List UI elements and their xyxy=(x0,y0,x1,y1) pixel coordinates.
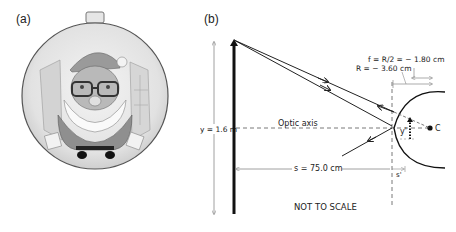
optic-axis-label: Optic axis xyxy=(278,119,318,128)
panel-a-ornament: (a) xyxy=(0,0,200,232)
image-distance-label: s' xyxy=(396,171,402,179)
ray-diagram: y = 1.6 m Optic axis C y' s = 75.0 c xyxy=(200,0,456,232)
focal-length-label: f = R/2 = − 1.80 cm xyxy=(368,55,444,64)
not-to-scale-note: NOT TO SCALE xyxy=(294,202,357,212)
panel-b-ray-diagram: (b) y = 1.6 m Optic axis C xyxy=(200,0,456,232)
image-height-label: y' xyxy=(400,127,407,136)
object-distance-label: s = 75.0 cm xyxy=(294,164,343,173)
radius-label: R = − 3.60 cm xyxy=(356,64,411,73)
center-label: C xyxy=(435,124,441,133)
object-height-label: y = 1.6 m xyxy=(200,125,237,134)
ornament-illustration xyxy=(0,0,200,232)
